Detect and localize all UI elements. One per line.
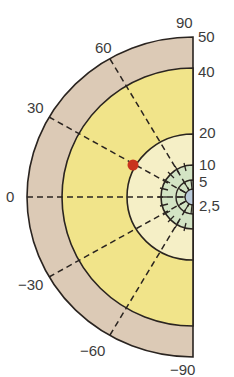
angle-label-minus-30: −30 (18, 277, 43, 292)
zone-diagram: 90 60 30 0 −30 −60 −90 50 40 20 10 5 2,5 (0, 0, 234, 377)
radius-label-5: 5 (199, 174, 207, 189)
angle-label-0: 0 (6, 189, 14, 204)
angle-label-30: 30 (27, 100, 44, 115)
radius-label-10: 10 (199, 157, 216, 172)
angle-label-minus-90: −90 (170, 362, 195, 377)
radius-label-50: 50 (198, 29, 215, 44)
marker-point (128, 160, 139, 171)
radius-label-2-5: 2,5 (199, 198, 220, 213)
radius-label-20: 20 (199, 125, 216, 140)
radius-label-40: 40 (198, 64, 215, 79)
angle-label-60: 60 (95, 40, 112, 55)
angle-label-90: 90 (176, 15, 193, 30)
angle-label-minus-60: −60 (80, 343, 105, 358)
